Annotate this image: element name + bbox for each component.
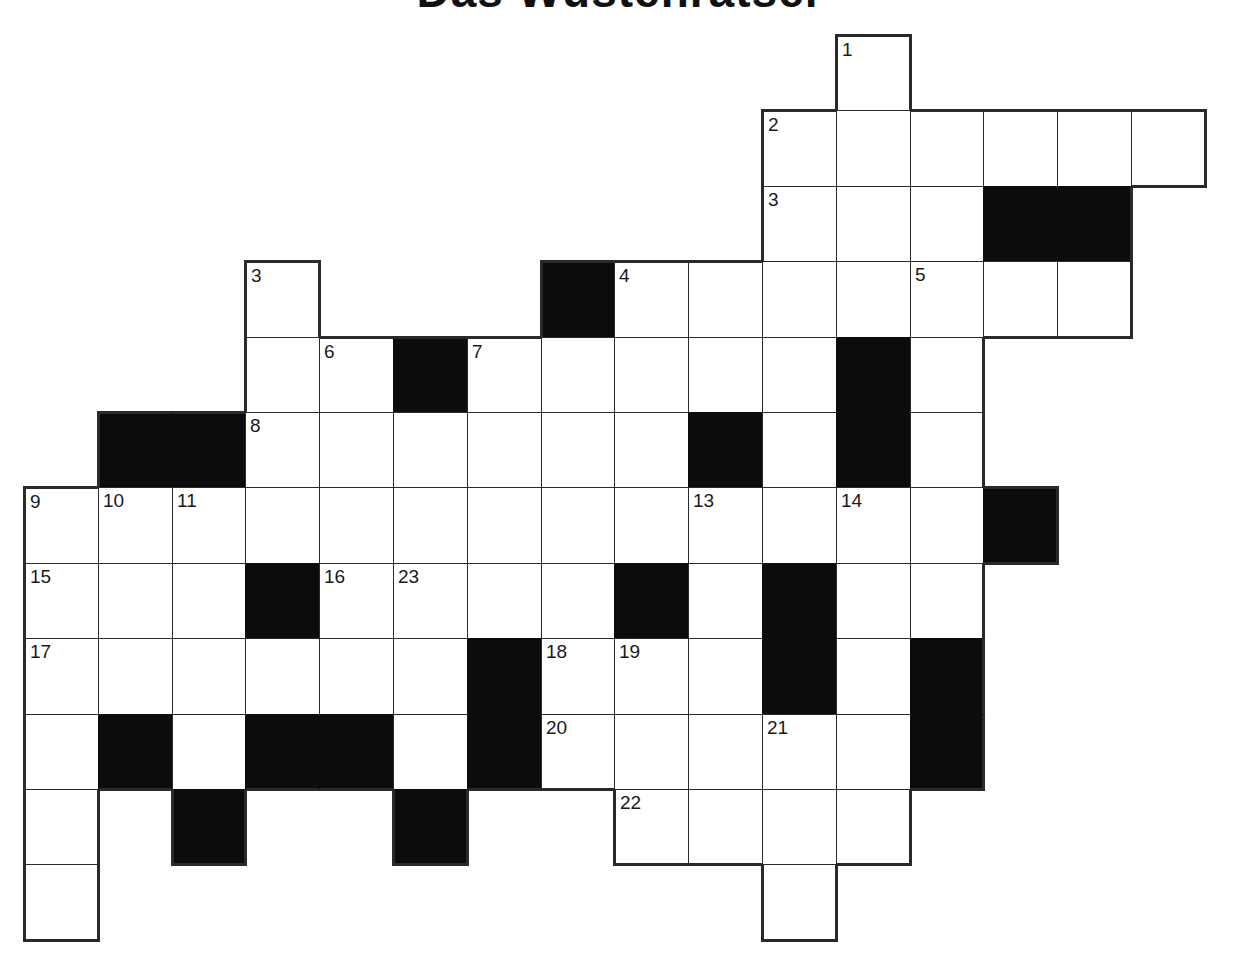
crossword-cell[interactable] (172, 714, 246, 790)
crossword-cell[interactable] (1131, 109, 1207, 188)
black-square (1057, 186, 1133, 262)
clue-number: 13 (693, 491, 714, 511)
crossword-cell[interactable] (836, 789, 912, 866)
crossword-cell[interactable] (983, 109, 1058, 187)
crossword-cell[interactable]: 18 (541, 638, 615, 715)
clue-number: 23 (398, 567, 419, 587)
crossword-cell[interactable] (245, 487, 320, 564)
crossword-cell[interactable] (319, 412, 394, 488)
crossword-cell[interactable]: 14 (836, 487, 911, 564)
crossword-cell[interactable] (688, 260, 763, 338)
crossword-cell[interactable]: 3 (244, 260, 321, 338)
crossword-cell[interactable] (688, 714, 763, 790)
crossword-cell[interactable] (910, 337, 985, 413)
crossword-cell[interactable] (172, 563, 246, 639)
crossword-cell[interactable]: 6 (319, 336, 394, 413)
crossword-cell[interactable]: 21 (762, 714, 837, 790)
crossword-cell[interactable] (836, 261, 911, 338)
crossword-cell[interactable] (1057, 261, 1133, 339)
crossword-cell[interactable] (910, 109, 984, 187)
crossword-cell[interactable]: 11 (172, 487, 246, 564)
crossword-cell[interactable] (319, 638, 394, 715)
crossword-cell[interactable] (688, 337, 763, 413)
crossword-cell[interactable]: 15 (23, 563, 99, 639)
crossword-cell[interactable]: 3 (761, 186, 837, 262)
black-square (540, 260, 615, 338)
crossword-cell[interactable] (614, 412, 689, 488)
crossword-cell[interactable] (23, 789, 100, 865)
crossword-cell[interactable] (467, 412, 542, 488)
clue-number: 1 (842, 40, 853, 60)
crossword-cell[interactable] (614, 714, 689, 790)
crossword-cell[interactable] (836, 563, 911, 639)
black-square (97, 411, 173, 488)
crossword-cell[interactable] (762, 337, 837, 413)
crossword-cell[interactable]: 4 (614, 260, 689, 338)
crossword-cell[interactable] (467, 487, 542, 564)
crossword-cell[interactable] (393, 487, 468, 564)
crossword-cell[interactable] (614, 337, 689, 413)
crossword-cell[interactable]: 5 (910, 261, 984, 338)
black-square (245, 714, 320, 791)
crossword-cell[interactable] (910, 412, 985, 488)
crossword-cell[interactable]: 17 (23, 638, 99, 715)
crossword-cell[interactable] (910, 186, 984, 262)
crossword-cell[interactable] (541, 487, 615, 564)
crossword-cell[interactable] (762, 487, 837, 564)
crossword-cell[interactable] (245, 638, 320, 715)
crossword-cell[interactable] (393, 412, 468, 488)
crossword-cell[interactable] (541, 563, 615, 639)
crossword-cell[interactable]: 2 (761, 109, 837, 187)
crossword-cell[interactable] (541, 337, 615, 413)
crossword-cell[interactable] (23, 714, 99, 790)
black-square (172, 411, 246, 488)
crossword-cell[interactable] (467, 563, 542, 639)
crossword-cell[interactable] (910, 563, 985, 639)
black-square (245, 563, 320, 639)
crossword-cell[interactable]: 9 (23, 486, 99, 564)
crossword-cell[interactable] (761, 864, 838, 942)
crossword-cell[interactable]: 22 (613, 789, 689, 866)
crossword-cell[interactable]: 20 (541, 714, 615, 791)
clue-number: 4 (619, 266, 630, 286)
crossword-cell[interactable] (541, 412, 615, 488)
crossword-cell[interactable] (98, 638, 173, 715)
black-square (98, 714, 173, 791)
crossword-cell[interactable] (983, 261, 1058, 339)
crossword-cell[interactable]: 23 (393, 563, 468, 639)
crossword-cell[interactable] (762, 789, 837, 865)
crossword-cell[interactable] (1057, 109, 1132, 187)
crossword-cell[interactable]: 10 (98, 487, 173, 564)
crossword-cell[interactable] (762, 261, 837, 338)
black-square (467, 714, 542, 791)
crossword-cell[interactable]: 16 (319, 563, 394, 639)
crossword-cell[interactable] (98, 563, 173, 639)
clue-number: 14 (841, 491, 862, 511)
crossword-cell[interactable] (688, 789, 763, 866)
crossword-cell[interactable] (688, 563, 763, 639)
crossword-cell[interactable] (319, 487, 394, 564)
crossword-cell[interactable]: 8 (245, 412, 320, 488)
black-square (319, 714, 394, 791)
crossword-cell[interactable] (836, 110, 911, 187)
crossword-cell[interactable]: 7 (467, 336, 542, 413)
crossword-cell[interactable] (762, 412, 837, 488)
crossword-cell[interactable] (23, 864, 100, 942)
crossword-cell[interactable]: 1 (835, 34, 912, 111)
clue-number: 19 (619, 642, 640, 662)
crossword-cell[interactable]: 19 (614, 638, 689, 715)
crossword-cell[interactable] (836, 186, 911, 262)
crossword-cell[interactable]: 13 (688, 487, 763, 564)
black-square (762, 638, 837, 715)
crossword-cell[interactable] (244, 337, 320, 413)
clue-number: 17 (30, 642, 51, 662)
crossword-cell[interactable] (393, 714, 468, 790)
crossword-cell[interactable] (688, 638, 763, 715)
crossword-cell[interactable] (836, 638, 911, 715)
black-square (762, 563, 837, 639)
crossword-cell[interactable] (614, 487, 689, 564)
crossword-cell[interactable] (172, 638, 246, 715)
crossword-cell[interactable] (393, 638, 468, 715)
crossword-cell[interactable] (836, 714, 911, 790)
crossword-cell[interactable] (910, 487, 984, 564)
